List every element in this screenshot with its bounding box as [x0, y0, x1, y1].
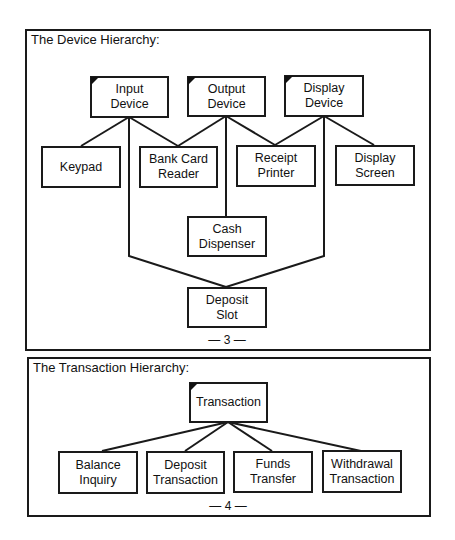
node-label: Input Device — [110, 82, 148, 112]
edge-output-receipt — [226, 116, 275, 145]
page-number-3: — 3 — — [208, 333, 245, 347]
node-withdrawal-transaction: Withdrawal Transaction — [322, 450, 402, 493]
edge-display-receipt — [275, 116, 324, 145]
node-deposit-transaction: Deposit Transaction — [146, 451, 225, 494]
edge-output-bankcard — [178, 116, 226, 146]
node-label: Keypad — [60, 160, 102, 175]
edge-trans-withdrawal — [228, 422, 361, 451]
node-label: Funds Transfer — [250, 457, 296, 487]
node-deposit-slot: Deposit Slot — [187, 287, 267, 328]
node-label: Deposit Slot — [206, 293, 248, 323]
abstract-corner-icon — [285, 76, 293, 84]
node-label: Receipt Printer — [255, 151, 297, 181]
node-receipt-printer: Receipt Printer — [236, 145, 316, 187]
node-label: Bank Card Reader — [149, 152, 208, 182]
node-label: Deposit Transaction — [153, 458, 218, 488]
node-label: Display Device — [304, 81, 345, 111]
node-input-device: Input Device — [90, 76, 169, 118]
node-label: Display Screen — [355, 151, 396, 181]
node-label: Transaction — [196, 395, 261, 410]
abstract-corner-icon — [91, 77, 99, 85]
edge-display-screen — [324, 116, 374, 145]
node-label: Cash Dispenser — [199, 222, 255, 252]
edge-trans-balance — [102, 422, 228, 451]
abstract-corner-icon — [190, 383, 198, 391]
node-display-screen: Display Screen — [335, 145, 415, 186]
node-label: Balance Inquiry — [75, 458, 120, 488]
node-balance-inquiry: Balance Inquiry — [58, 451, 138, 494]
node-output-device: Output Device — [187, 76, 266, 117]
edge-input-deposit — [129, 117, 226, 287]
edge-input-keypad — [81, 117, 129, 146]
edge-display-deposit — [226, 116, 324, 287]
node-transaction: Transaction — [189, 382, 268, 423]
edge-input-bankcard — [129, 117, 178, 146]
node-keypad: Keypad — [41, 146, 121, 188]
abstract-corner-icon — [188, 77, 196, 85]
node-display-device: Display Device — [284, 75, 364, 117]
node-label: Output Device — [207, 82, 245, 112]
node-bank-card-reader: Bank Card Reader — [139, 146, 218, 188]
page-number-4: — 4 — — [209, 499, 246, 513]
node-funds-transfer: Funds Transfer — [233, 451, 313, 493]
node-label: Withdrawal Transaction — [330, 457, 395, 487]
node-cash-dispenser: Cash Dispenser — [187, 216, 267, 257]
